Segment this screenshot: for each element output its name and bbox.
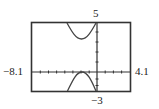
- curve-upper-branch: [67, 23, 96, 39]
- y-max-label: 5: [93, 8, 99, 19]
- plot-frame: [32, 23, 131, 92]
- x-max-label: 4.1: [135, 66, 149, 77]
- curve-lower-branch: [68, 72, 97, 91]
- x-min-label: −8.1: [3, 66, 23, 77]
- y-min-label: −3: [91, 95, 103, 106]
- graph-canvas: [0, 0, 159, 109]
